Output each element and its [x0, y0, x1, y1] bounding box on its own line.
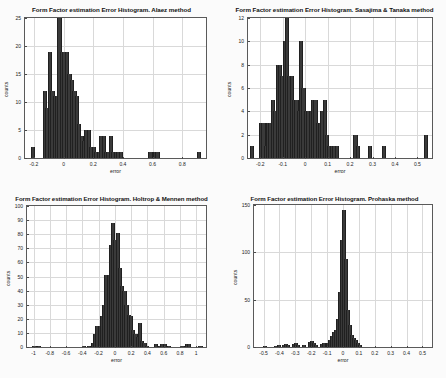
- histogram-bar: [296, 345, 300, 347]
- x-axis-tick-mark: [417, 157, 418, 159]
- x-axis-tick-label: -0.4: [275, 350, 284, 356]
- y-axis-tick-label: 150: [233, 202, 250, 208]
- x-axis-tick-label: -0.3: [291, 350, 300, 356]
- y-axis-tick-label: 10: [6, 330, 23, 336]
- x-axis-tick-mark: [34, 157, 35, 159]
- y-axis-tick-label: 100: [233, 249, 250, 255]
- y-axis-tick-label: 70: [6, 245, 23, 251]
- x-axis-tick-label: 0: [113, 350, 116, 356]
- plot-area: [24, 17, 207, 159]
- histogram-bar: [198, 346, 202, 347]
- x-axis-tick-label: -0.2: [94, 350, 103, 356]
- bar-layer: [25, 18, 206, 158]
- y-axis-tick-mark: [27, 234, 29, 235]
- x-axis-tick-label: -0.4: [78, 350, 87, 356]
- y-axis-tick-mark: [248, 18, 250, 19]
- x-axis-tick-label: 0.4: [144, 350, 151, 356]
- x-axis-tick-mark: [99, 346, 100, 348]
- histogram-bar: [197, 152, 201, 158]
- y-axis-tick-mark: [254, 252, 256, 253]
- x-axis-tick-label: 0.5: [414, 161, 421, 167]
- x-axis-tick-mark: [93, 157, 94, 159]
- x-axis-tick-label: 1: [195, 350, 198, 356]
- y-axis-tick-mark: [248, 135, 250, 136]
- y-axis-label: counts: [232, 270, 238, 285]
- x-axis-label: error: [24, 168, 207, 174]
- y-axis-tick-label: 50: [233, 297, 250, 303]
- plot-area: [247, 17, 433, 159]
- x-axis-tick-label: 0.2: [347, 161, 354, 167]
- x-axis-tick-mark: [422, 346, 423, 348]
- x-axis-tick-mark: [66, 346, 67, 348]
- histogram-panel-alaez: Form Factor estimation Error Histogram. …: [0, 0, 223, 189]
- histogram-bar: [356, 146, 360, 158]
- histogram-panel-prohaska: Form Factor estimation Error Histogram. …: [223, 189, 446, 378]
- histogram-bar: [382, 146, 386, 158]
- y-axis-tick-mark: [25, 130, 27, 131]
- x-axis-tick-mark: [350, 157, 351, 159]
- histogram-bar: [155, 152, 159, 158]
- x-axis-tick-label: 0.5: [419, 350, 426, 356]
- y-axis-tick-label: 20: [4, 43, 21, 49]
- x-axis-label: error: [253, 357, 433, 363]
- x-axis-tick-mark: [180, 346, 181, 348]
- y-axis-tick-mark: [25, 74, 27, 75]
- y-axis-tick-mark: [248, 88, 250, 89]
- y-axis-tick-mark: [27, 305, 29, 306]
- bar-layer: [254, 205, 432, 347]
- x-axis-tick-label: 0: [304, 161, 307, 167]
- x-axis-tick-mark: [147, 346, 148, 348]
- x-axis-tick-mark: [123, 157, 124, 159]
- y-axis-tick-label: 40: [6, 288, 23, 294]
- x-axis-tick-mark: [328, 157, 329, 159]
- x-axis-tick-label: -0.1: [323, 350, 332, 356]
- y-axis-tick-mark: [27, 319, 29, 320]
- histogram-bar: [37, 346, 41, 347]
- x-axis-label: error: [26, 357, 207, 363]
- y-axis-tick-mark: [27, 220, 29, 221]
- y-axis-tick-mark: [248, 65, 250, 66]
- y-axis-label: counts: [3, 82, 9, 97]
- x-axis-tick-label: 0.8: [179, 161, 186, 167]
- x-axis-tick-label: 0.2: [90, 161, 97, 167]
- y-axis-tick-mark: [25, 18, 27, 19]
- x-axis-tick-mark: [264, 346, 265, 348]
- histogram-bar: [302, 345, 306, 347]
- x-axis-tick-mark: [64, 157, 65, 159]
- y-axis-tick-label: 0: [6, 344, 23, 350]
- plot-area: [26, 205, 207, 348]
- x-axis-tick-label: 0: [62, 161, 65, 167]
- x-axis-tick-mark: [395, 157, 396, 159]
- x-axis-tick-label: 0.1: [355, 350, 362, 356]
- y-axis-tick-mark: [27, 262, 29, 263]
- x-axis-tick-label: -0.2: [30, 161, 39, 167]
- y-axis-tick-label: 25: [4, 15, 21, 21]
- bar-layer: [248, 18, 432, 158]
- x-axis-tick-label: 0: [342, 350, 345, 356]
- histogram-panel-holtrop-mennen: Form Factor estimation Error Histogram. …: [0, 189, 223, 378]
- panel-title: Form Factor estimation Error Histogram. …: [223, 195, 446, 202]
- y-axis-label: counts: [5, 270, 11, 285]
- x-axis-tick-label: 0.2: [128, 350, 135, 356]
- y-axis-tick-label: 30: [6, 302, 23, 308]
- x-axis-tick-mark: [407, 346, 408, 348]
- histogram-bar: [424, 135, 428, 158]
- x-axis-tick-mark: [375, 346, 376, 348]
- y-axis-tick-label: 10: [227, 38, 244, 44]
- y-axis-tick-mark: [27, 347, 29, 348]
- y-axis-tick-label: 90: [6, 217, 23, 223]
- x-axis-tick-mark: [153, 157, 154, 159]
- x-axis-tick-mark: [182, 157, 183, 159]
- x-axis-tick-mark: [260, 157, 261, 159]
- x-axis-tick-label: -1: [31, 350, 35, 356]
- x-axis-tick-label: -0.1: [278, 161, 287, 167]
- x-axis-tick-mark: [373, 157, 374, 159]
- x-axis-tick-label: 0.4: [403, 350, 410, 356]
- x-axis-tick-mark: [131, 346, 132, 348]
- x-axis-tick-mark: [359, 346, 360, 348]
- x-axis-tick-mark: [115, 346, 116, 348]
- y-axis-tick-mark: [248, 41, 250, 42]
- y-axis-tick-mark: [27, 206, 29, 207]
- y-axis-tick-label: 5: [4, 127, 21, 133]
- bar-layer: [27, 206, 206, 347]
